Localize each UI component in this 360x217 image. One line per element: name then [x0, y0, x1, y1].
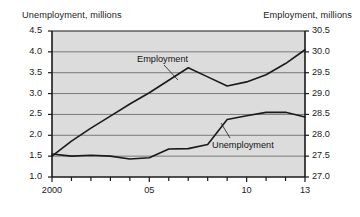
chart-container: Unemployment, millions Employment, milli… — [0, 0, 360, 217]
y-left-tick-label: 4.5 — [18, 25, 42, 35]
x-tick-label: 10 — [227, 185, 267, 195]
y-left-tick-label: 2.5 — [18, 108, 42, 118]
x-tick-label: 2000 — [32, 185, 72, 195]
y-left-tick-label: 2.0 — [18, 129, 42, 139]
y-right-tick-label: 28.0 — [312, 129, 338, 139]
y-right-tick-label: 28.5 — [312, 108, 338, 118]
series-annotation-unemployment: Unemployment — [212, 140, 274, 150]
series-annotation-employment: Employment — [137, 54, 188, 64]
y-left-tick-label: 3.0 — [18, 88, 42, 98]
y-right-tick-label: 30.5 — [312, 25, 338, 35]
y-left-tick-label: 3.5 — [18, 67, 42, 77]
y-left-tick-label: 1.0 — [18, 171, 42, 181]
y-left-tick-label: 4.0 — [18, 46, 42, 56]
y-right-tick-label: 30.0 — [312, 46, 338, 56]
y-right-tick-label: 29.5 — [312, 67, 338, 77]
x-tick-label: 13 — [285, 185, 325, 195]
y-right-tick-label: 27.0 — [312, 171, 338, 181]
y-left-tick-label: 1.5 — [18, 150, 42, 160]
y-right-tick-label: 27.5 — [312, 150, 338, 160]
y-right-tick-label: 29.0 — [312, 88, 338, 98]
x-tick-label: 05 — [129, 185, 169, 195]
